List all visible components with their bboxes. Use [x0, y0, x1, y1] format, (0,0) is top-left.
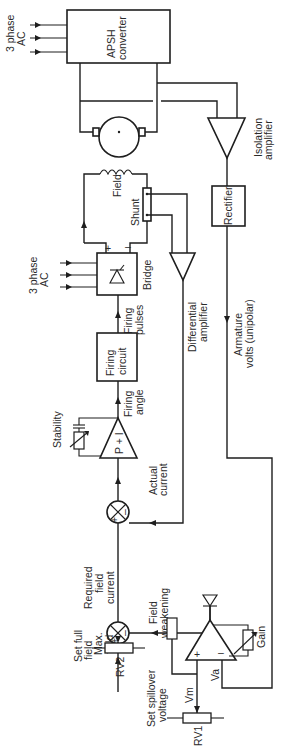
firing-circuit-block: Firing circuit	[97, 333, 137, 381]
differential-amplifier: Differential amplifier	[129, 253, 209, 523]
opamp-plus: +	[194, 648, 200, 660]
dc-motor-armature	[93, 117, 145, 157]
circuit-label: circuit	[116, 347, 128, 375]
rectifier-block: Rectifier	[212, 186, 245, 226]
three-phase-input-bridge: 3 phase AC	[27, 256, 97, 294]
apsh-converter-block: APSH converter	[67, 10, 170, 63]
stability-label: Stability	[51, 410, 63, 448]
three-phase-input-top: 3 phase AC	[4, 14, 67, 55]
bridge-plus: +	[105, 242, 111, 254]
bridge-minus: –	[125, 240, 131, 252]
thyristor-bridge: + – Bridge	[97, 240, 153, 295]
pulses-label: pulses	[133, 305, 145, 335]
vm-label: Vm	[183, 687, 195, 703]
armature-volts-feedback: Armature volts (unipolar)	[222, 226, 272, 688]
opamp-minus: –	[218, 646, 224, 658]
current-label: current	[157, 463, 169, 496]
rectifier-label: Rectifier	[222, 186, 234, 225]
current-label-2: current	[104, 571, 116, 604]
pi-label: P + I	[113, 432, 125, 454]
volts-unipolar-label: volts (unipolar)	[243, 299, 255, 368]
firing-label: Firing	[104, 350, 116, 376]
amplifier-label-diff: amplifier	[197, 302, 209, 342]
converter-label: converter	[116, 16, 128, 60]
shunt-label: Shunt	[129, 198, 141, 226]
required-field-current-signal: Required field current	[82, 523, 118, 622]
sum1-plus: +	[108, 517, 120, 523]
firing-pulses-signal: Firing pulses	[115, 295, 145, 335]
ac-label-bridge: AC	[38, 272, 50, 287]
field-weakening-amplifier: + – Gain Vm Va	[167, 595, 267, 713]
summing-junction-current: + – Actual current	[107, 458, 169, 526]
full-field-label-2: field	[82, 641, 94, 660]
bridge-label: Bridge	[141, 259, 153, 290]
angle-label: angle	[133, 389, 145, 415]
amplifier-label-iso: amplifier	[262, 120, 274, 160]
voltage-label: voltage	[156, 688, 168, 722]
field-control-block-diagram: 3 phase AC APSH converter Isolation ampl…	[0, 0, 285, 750]
gain-label: Gain	[255, 626, 267, 648]
rv2-label: RV2	[114, 657, 126, 677]
isolation-amplifier: Isolation amplifier	[208, 118, 274, 186]
firing-angle-signal: Firing angle	[115, 381, 145, 418]
va-label: Va	[209, 669, 221, 681]
sum2-minus: –	[118, 630, 130, 636]
field-label: Field	[111, 174, 123, 197]
rv1-label: RV1	[192, 726, 204, 746]
sum1-minus: –	[118, 509, 130, 515]
summing-junction-field: + – Field weakening	[107, 588, 210, 644]
ac-label-top: AC	[15, 31, 27, 46]
